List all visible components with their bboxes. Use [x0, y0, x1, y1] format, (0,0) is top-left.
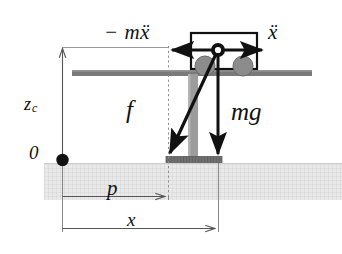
- label-origin: 0: [29, 143, 39, 162]
- wheel-right: [233, 56, 253, 76]
- center-of-mass-dot-core: [215, 47, 221, 53]
- label-com-height: zc: [24, 95, 37, 114]
- label-zmp-distance: p: [107, 178, 118, 199]
- diagram-svg: [0, 0, 342, 254]
- label-gravity-force: mg: [231, 99, 262, 124]
- label-com-distance: x: [127, 210, 135, 229]
- figure-canvas: − mẍ ẍ f mg zc 0 p x: [0, 0, 342, 254]
- support-foot: [166, 157, 222, 163]
- label-com-height-subscript: c: [32, 101, 37, 115]
- label-inertial-force: − mẍ: [104, 22, 150, 43]
- label-com-height-base: z: [24, 94, 31, 114]
- origin-dot: [56, 154, 68, 166]
- label-acceleration: ẍ: [268, 22, 277, 43]
- label-reaction-force: f: [126, 97, 133, 122]
- ground-band: [44, 163, 342, 200]
- vertical-leg: [188, 74, 198, 160]
